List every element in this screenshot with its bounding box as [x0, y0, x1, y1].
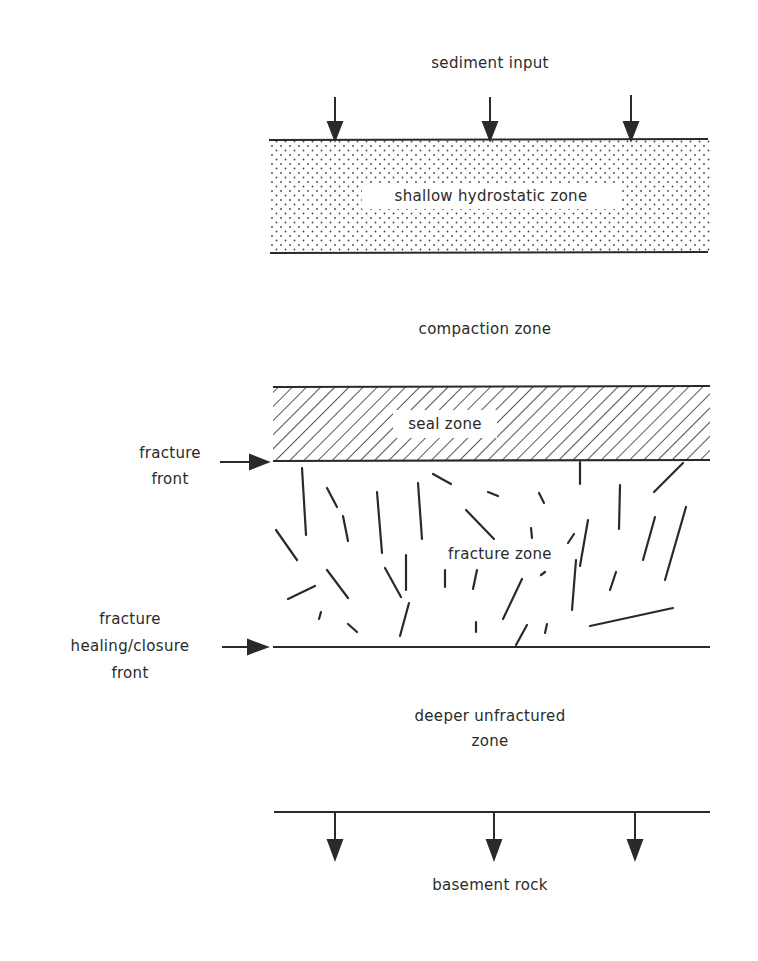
fracture-front-label-line2: front: [110, 468, 230, 490]
sediment-input-arrows: [328, 95, 638, 140]
basement-rock-label: basement rock: [410, 874, 570, 896]
down-arrow-icon: [328, 122, 342, 140]
basin-zone-diagram: sediment input shallow hydrostatic zone …: [0, 0, 758, 961]
deeper-zone-label-line1: deeper unfractured: [380, 705, 600, 727]
fracture-zone-label: fracture zone: [420, 543, 580, 565]
down-arrow-icon: [328, 840, 342, 859]
healing-front-label-line3: front: [40, 662, 220, 684]
deeper-zone-label-line2: zone: [380, 730, 600, 752]
healing-front-arrow: [222, 640, 267, 654]
healing-front-label-line2: healing/closure: [40, 635, 220, 657]
shallow-zone-label: shallow hydrostatic zone: [362, 185, 620, 207]
down-arrow-icon: [483, 122, 497, 140]
down-arrow-icon: [487, 840, 501, 859]
healing-front-label-line1: fracture: [40, 608, 220, 630]
compaction-zone-label: compaction zone: [400, 318, 570, 340]
right-arrow-icon: [248, 640, 267, 654]
down-arrow-icon: [628, 840, 642, 859]
down-arrow-icon: [624, 122, 638, 140]
basement-boundary: [274, 812, 710, 859]
sediment-input-label: sediment input: [410, 52, 570, 74]
right-arrow-icon: [250, 455, 268, 469]
fracture-front-label-line1: fracture: [110, 442, 230, 464]
seal-zone-label: seal zone: [393, 413, 497, 435]
